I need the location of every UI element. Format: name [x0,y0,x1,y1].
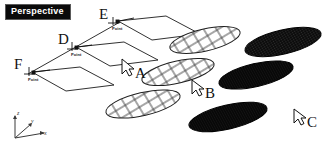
object-label-c: C [307,115,317,130]
object-a-lower[interactable] [103,84,182,124]
point-label-d: D [58,32,69,47]
point-caption-f: Point [28,77,39,82]
point-caption-d: Point [71,52,82,57]
point-label-f: F [14,57,22,72]
object-b-upper[interactable] [242,22,323,63]
axis-label-z: z [17,110,19,116]
axis-label-x: x [44,130,47,136]
object-b-mid[interactable] [216,55,295,95]
object-a-upper[interactable] [167,21,242,59]
object-c-lower[interactable] [186,96,269,137]
construction-spine [28,22,120,74]
cursor-a-icon [122,59,134,76]
scene-canvas[interactable] [0,0,329,149]
perspective-viewport[interactable]: Perspective E Point D Point F Point A B … [0,0,329,149]
cursor-b-icon [192,80,204,96]
object-label-a: A [135,66,146,81]
axis-label-y: y [31,118,34,124]
axis-gizmo-lines [13,115,45,138]
viewport-label[interactable]: Perspective [5,4,71,20]
object-label-b: B [205,86,215,101]
cursor-c-icon [294,109,306,125]
point-caption-e: Point [112,26,123,31]
point-label-e: E [99,7,108,22]
